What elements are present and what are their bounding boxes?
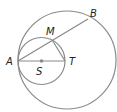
center-point-S bbox=[40, 59, 44, 63]
large-circle bbox=[18, 11, 116, 109]
label-B: B bbox=[90, 8, 97, 19]
label-A: A bbox=[5, 56, 13, 67]
label-M: M bbox=[46, 26, 55, 37]
label-S: S bbox=[36, 66, 43, 77]
label-T: T bbox=[69, 56, 76, 67]
geometry-diagram: A B M S T bbox=[0, 0, 117, 112]
